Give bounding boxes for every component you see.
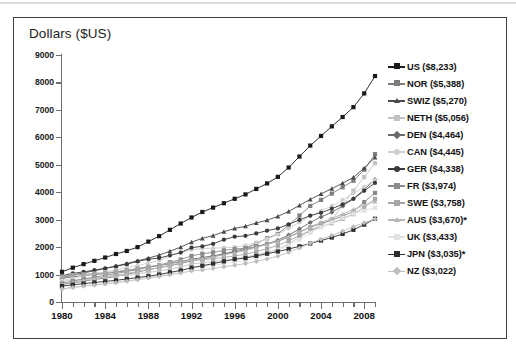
legend-item-label: AUS ($3,670)* [407, 215, 467, 225]
legend-marker-icon [388, 95, 405, 106]
x-axis-tick [299, 303, 300, 307]
x-axis-tick [192, 303, 193, 309]
x-axis-tick [138, 303, 139, 307]
x-axis-tick [181, 303, 182, 307]
x-axis-tick [148, 303, 149, 309]
x-axis-tick [353, 303, 354, 307]
x-axis-tick [235, 303, 236, 309]
x-axis-tick-label: 1984 [95, 310, 116, 321]
legend-item-label: CAN ($4,445) [407, 147, 464, 157]
x-axis-tick [159, 303, 160, 307]
legend-marker-icon [388, 214, 405, 225]
x-axis-tick-label: 2008 [354, 310, 375, 321]
y-axis-tick [56, 247, 61, 248]
x-axis-tick [332, 303, 333, 307]
legend-item-label: SWE ($3,758) [407, 198, 465, 208]
x-axis-tick [343, 303, 344, 307]
y-axis-line [61, 54, 62, 303]
legend-item-label: JPN ($3,035)* [407, 249, 465, 259]
legend-item-label: UK ($3,433) [407, 232, 457, 242]
x-axis-tick [289, 303, 290, 307]
x-axis-tick [246, 303, 247, 307]
y-axis-tick [56, 165, 61, 166]
chart-legend: US ($8,233)NOR ($5,388)SWIZ ($5,270)NETH… [388, 58, 510, 280]
x-axis-tick [375, 303, 376, 307]
legend-marker-icon [388, 129, 405, 140]
x-axis-tick [364, 303, 365, 309]
legend-item-swe[interactable]: SWE ($3,758) [388, 194, 510, 211]
legend-item-label: GER ($4,338) [407, 164, 464, 174]
legend-item-uk[interactable]: UK ($3,433) [388, 228, 510, 245]
x-axis-tick [321, 303, 322, 309]
y-axis-tick-label: 5000 [35, 160, 54, 170]
y-axis-tick-label: 0 [49, 297, 54, 307]
x-axis-tick [116, 303, 117, 307]
top-divider-rule [0, 2, 516, 4]
y-axis-tick [56, 192, 61, 193]
x-axis-tick [202, 303, 203, 307]
y-axis-tick [56, 110, 61, 111]
legend-item-us[interactable]: US ($8,233) [388, 58, 510, 75]
x-axis-tick-label: 2000 [267, 310, 288, 321]
x-axis-tick-label: 1996 [224, 310, 245, 321]
x-axis-tick [278, 303, 279, 309]
legend-item-can[interactable]: CAN ($4,445) [388, 143, 510, 160]
legend-item-ger[interactable]: GER ($4,338) [388, 160, 510, 177]
legend-item-swiz[interactable]: SWIZ ($5,270) [388, 92, 510, 109]
x-axis-tick [170, 303, 171, 307]
legend-marker-icon [388, 112, 405, 123]
legend-marker-icon [388, 249, 405, 260]
y-axis-tick-label: 9000 [35, 50, 54, 60]
x-axis-tick [224, 303, 225, 307]
y-axis-tick-label: 7000 [35, 105, 54, 115]
y-axis-tick [56, 82, 61, 83]
legend-marker-icon [388, 266, 405, 277]
y-axis-tick-label: 3000 [35, 215, 54, 225]
legend-item-label: NETH ($5,056) [407, 113, 469, 123]
x-axis-tick [62, 303, 63, 309]
x-axis-tick [256, 303, 257, 307]
legend-item-label: NOR ($5,388) [407, 79, 464, 89]
y-axis-labels: 0100020003000400050006000700080009000 [0, 0, 54, 359]
y-axis-tick-label: 2000 [35, 242, 54, 252]
legend-item-nor[interactable]: NOR ($5,388) [388, 75, 510, 92]
legend-item-jpn[interactable]: JPN ($3,035)* [388, 246, 510, 263]
legend-item-neth[interactable]: NETH ($5,056) [388, 109, 510, 126]
legend-item-nz[interactable]: NZ ($3,022) [388, 263, 510, 280]
x-axis-tick [105, 303, 106, 309]
x-axis-tick [127, 303, 128, 307]
x-axis-tick-label: 1992 [181, 310, 202, 321]
y-axis-tick [56, 275, 61, 276]
x-axis-tick-label: 1980 [51, 310, 72, 321]
legend-marker-icon [388, 180, 405, 191]
x-axis-line [61, 302, 376, 303]
legend-item-label: DEN ($4,464) [407, 130, 463, 140]
y-axis-tick-label: 1000 [35, 270, 54, 280]
legend-item-den[interactable]: DEN ($4,464) [388, 126, 510, 143]
legend-marker-icon [388, 197, 405, 208]
y-axis-tick [56, 302, 61, 303]
legend-marker-icon [388, 231, 405, 242]
x-axis-tick [84, 303, 85, 307]
x-axis-tick-label: 1988 [138, 310, 159, 321]
legend-item-fr[interactable]: FR ($3,974) [388, 177, 510, 194]
legend-marker-icon [388, 163, 405, 174]
x-axis-tick-label: 2004 [310, 310, 331, 321]
x-axis-tick [213, 303, 214, 307]
x-axis-tick [310, 303, 311, 307]
y-axis-tick-label: 8000 [35, 77, 54, 87]
legend-item-aus[interactable]: AUS ($3,670)* [388, 211, 510, 228]
y-axis-tick [56, 220, 61, 221]
y-axis-tick-label: 6000 [35, 132, 54, 142]
legend-item-label: US ($8,233) [407, 62, 457, 72]
x-axis-tick [267, 303, 268, 307]
x-axis-tick [94, 303, 95, 307]
legend-item-label: NZ ($3,022) [407, 266, 456, 276]
legend-item-label: SWIZ ($5,270) [407, 96, 467, 106]
y-axis-tick [56, 137, 61, 138]
legend-marker-icon [388, 61, 405, 72]
y-axis-tick-label: 4000 [35, 187, 54, 197]
legend-marker-icon [388, 78, 405, 89]
legend-marker-icon [388, 146, 405, 157]
x-axis-tick [73, 303, 74, 307]
